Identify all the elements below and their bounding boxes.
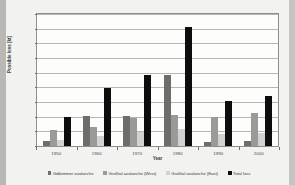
legend-item: Gidlommer avalanche [48, 171, 94, 176]
bar [211, 117, 218, 146]
bar-group [198, 14, 238, 146]
bar [178, 129, 185, 146]
legend-swatch-icon [166, 171, 170, 175]
bar [104, 88, 111, 146]
y-axis-tick-mark [35, 29, 37, 30]
legend-label: Großtal avalanche (West) [109, 171, 157, 176]
bar [244, 141, 251, 146]
bar [57, 140, 64, 146]
bar [171, 115, 178, 146]
bar [265, 96, 272, 146]
legend-item: Total loss [228, 171, 251, 176]
chart-plot-area: 050010001500200025003000350040004500 [36, 13, 279, 147]
bar [258, 133, 265, 146]
bar [123, 116, 130, 146]
legend-label: Großtal avalanche (East) [171, 171, 218, 176]
legend-swatch-icon [103, 171, 107, 175]
y-axis-tick-mark [35, 102, 37, 103]
bar [137, 132, 144, 146]
bar-group [117, 14, 157, 146]
y-axis-tick-mark [35, 14, 37, 15]
scan-edge-right [289, 0, 295, 185]
y-axis-tick-mark [35, 43, 37, 44]
bar [83, 116, 90, 146]
bar [43, 141, 50, 146]
legend-item: Großtal avalanche (East) [166, 171, 218, 176]
y-axis-tick-mark [35, 117, 37, 118]
bar [164, 75, 171, 146]
bar-group [238, 14, 278, 146]
legend-swatch-icon [228, 171, 232, 175]
bar-group [37, 14, 77, 146]
bar-group [77, 14, 117, 146]
bar [251, 113, 258, 146]
legend-label: Gidlommer avalanche [53, 171, 94, 176]
bar-groups [37, 14, 278, 146]
x-axis-tick-mark [279, 147, 280, 150]
legend-swatch-icon [48, 171, 52, 175]
bar [97, 136, 104, 146]
bar [204, 142, 211, 146]
bar [90, 127, 97, 146]
screenshot-root: Possible loss [kt] 050010001500200025003… [0, 0, 295, 185]
bar [225, 101, 232, 146]
y-axis-tick-mark [35, 73, 37, 74]
y-axis-title: Possible loss [kt] [7, 20, 12, 90]
y-axis-tick-mark [35, 58, 37, 59]
chart-legend: Gidlommer avalancheGroßtal avalanche (We… [18, 168, 280, 178]
bar [64, 117, 71, 146]
x-axis-title: Year [36, 156, 279, 161]
bar [218, 134, 225, 146]
y-axis-tick-mark [35, 87, 37, 88]
bar-group [158, 14, 198, 146]
bar [185, 27, 192, 146]
legend-item: Großtal avalanche (West) [103, 171, 156, 176]
bar [50, 130, 57, 146]
bar [144, 75, 151, 146]
legend-label: Total loss [233, 171, 250, 176]
y-axis-tick-mark [35, 131, 37, 132]
bar [130, 118, 137, 146]
